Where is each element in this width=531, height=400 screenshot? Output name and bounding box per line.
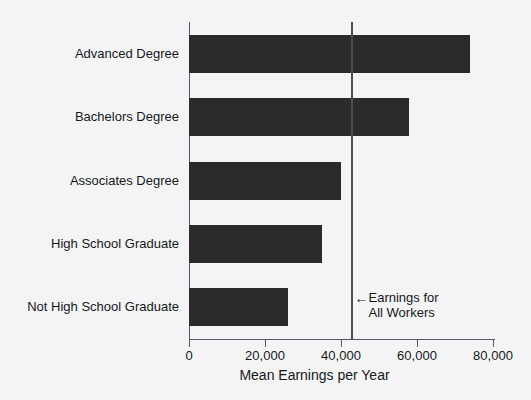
- category-label: Advanced Degree: [0, 46, 179, 61]
- x-tick-label: 0: [185, 348, 192, 363]
- category-label: Not High School Graduate: [0, 299, 179, 314]
- reference-line-all-workers: [351, 22, 353, 340]
- bar-row[interactable]: [189, 288, 494, 326]
- bar-row[interactable]: [189, 162, 494, 200]
- x-tick-mark: [265, 340, 266, 347]
- bar-row[interactable]: [189, 225, 494, 263]
- x-axis-title: Mean Earnings per Year: [0, 367, 531, 383]
- reference-arrow-icon: ←: [355, 291, 369, 306]
- bar-bachelors-degree[interactable]: [189, 98, 409, 136]
- bar-row[interactable]: [189, 98, 494, 136]
- bar-not-high-school-graduate[interactable]: [189, 288, 288, 326]
- x-axis-title-text: Mean Earnings per Year: [239, 367, 389, 383]
- x-tick-label: 60,000: [397, 348, 437, 363]
- x-tick-mark: [341, 340, 342, 347]
- reference-annotation-label: Earnings for All Workers: [369, 290, 439, 320]
- x-tick-mark: [493, 340, 494, 347]
- x-tick-label: 80,000: [473, 348, 513, 363]
- x-tick-label: 20,000: [245, 348, 285, 363]
- plot-area: [189, 22, 494, 339]
- bar-high-school-graduate[interactable]: [189, 225, 322, 263]
- x-tick-mark: [189, 340, 190, 347]
- x-tick-mark: [417, 340, 418, 347]
- bar-advanced-degree[interactable]: [189, 35, 470, 73]
- bar-associates-degree[interactable]: [189, 162, 341, 200]
- category-label: Associates Degree: [0, 173, 179, 188]
- category-label: Bachelors Degree: [0, 109, 179, 124]
- chart-figure: Advanced DegreeBachelors DegreeAssociate…: [0, 0, 531, 400]
- x-tick-label: 40,000: [321, 348, 361, 363]
- reference-annotation-line2: All Workers: [369, 305, 439, 320]
- reference-annotation-line1: Earnings for: [369, 290, 439, 305]
- x-axis-line: [189, 339, 495, 340]
- category-label: High School Graduate: [0, 236, 179, 251]
- bar-row[interactable]: [189, 35, 494, 73]
